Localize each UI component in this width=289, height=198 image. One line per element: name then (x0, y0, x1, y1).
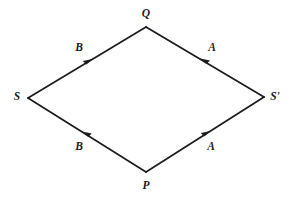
vertex-label-Q: Q (142, 8, 150, 20)
vertex-label-S-prime: S' (270, 91, 280, 103)
edge-P-Sp (146, 97, 264, 172)
edge-P-S (28, 98, 146, 172)
edge-label-Sp-Q: A (208, 42, 216, 54)
edge-label-S-Q: B (75, 42, 83, 54)
edge-label-P-S: B (75, 141, 83, 153)
edge-label-P-Sp: A (207, 141, 215, 153)
vertex-label-P: P (142, 180, 149, 192)
rhombus-diagram (0, 0, 289, 198)
edge-S-Q (28, 27, 146, 98)
vertex-label-S: S (14, 91, 20, 103)
diagram-canvas: Q S S' P B A B A (0, 0, 289, 198)
edge-Sp-Q (146, 27, 264, 97)
